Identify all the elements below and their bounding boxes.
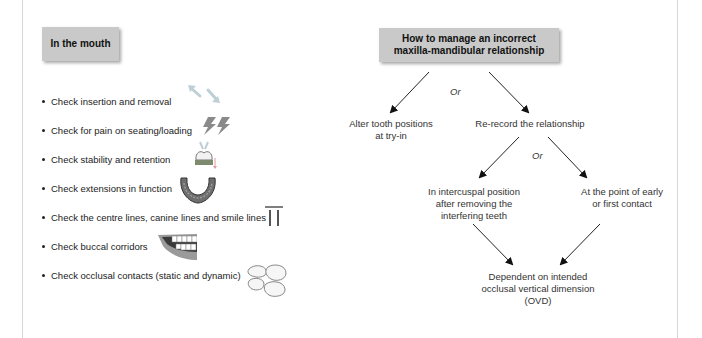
sub-option-intercuspal: In intercuspal position after removing t… xyxy=(420,186,528,222)
result-line2: occlusal vertical dimension xyxy=(478,283,598,295)
option-alter-tooth-positions: Alter tooth positions at try-in xyxy=(342,118,440,142)
result-line3: (OVD) xyxy=(478,295,598,307)
sub-early-line2: or first contact xyxy=(573,198,671,210)
or-label-1: Or xyxy=(450,86,461,97)
sub-early-line1: At the point of early xyxy=(573,186,671,198)
sub-icp-line1: In intercuspal position xyxy=(420,186,528,198)
sub-option-early-contact: At the point of early or first contact xyxy=(573,186,671,210)
option-rerecord-relationship: Re-record the relationship xyxy=(470,118,590,130)
sub-icp-line2: after removing the xyxy=(420,198,528,210)
option-alter-line1: Alter tooth positions xyxy=(342,118,440,130)
sub-icp-line3: interfering teeth xyxy=(420,210,528,222)
result-ovd: Dependent on intended occlusal vertical … xyxy=(478,271,598,307)
option-alter-line2: at try-in xyxy=(342,130,440,142)
option-rerecord-label: Re-record the relationship xyxy=(470,118,590,130)
result-line1: Dependent on intended xyxy=(478,271,598,283)
or-label-2: Or xyxy=(532,150,543,161)
